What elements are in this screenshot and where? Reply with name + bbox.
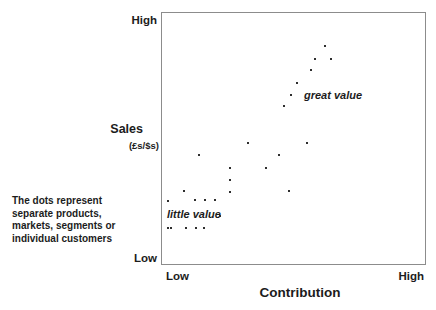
data-dot <box>229 179 231 181</box>
data-dot <box>185 227 187 229</box>
data-dot <box>278 154 280 156</box>
x-axis-high-label: High <box>394 270 424 282</box>
plot-area: great value little value <box>161 12 426 265</box>
data-dot <box>314 58 316 60</box>
side-note: The dots represent separate products, ma… <box>12 195 152 245</box>
side-note-line: The dots represent <box>12 195 152 208</box>
y-axis-high-label: High <box>60 14 157 26</box>
side-note-line: separate products, <box>12 208 152 221</box>
data-dot <box>283 105 285 107</box>
data-dot <box>229 167 231 169</box>
data-dot <box>229 191 231 193</box>
data-dot <box>198 154 200 156</box>
side-note-line: individual customers <box>12 233 152 246</box>
y-axis-title: Sales <box>62 122 159 136</box>
data-dot <box>194 199 196 201</box>
data-dot <box>290 94 292 96</box>
data-dot <box>167 227 169 229</box>
data-dot <box>195 227 197 229</box>
little-value-label: little value <box>167 208 221 220</box>
x-axis-title: Contribution <box>170 285 430 300</box>
data-dot <box>265 167 267 169</box>
data-dot <box>247 142 249 144</box>
data-dot <box>324 45 326 47</box>
y-axis-units: (£s/$s) <box>62 140 159 151</box>
y-axis-title-block: Sales (£s/$s) <box>62 122 159 151</box>
data-dot <box>214 199 216 201</box>
x-axis-low-label: Low <box>166 270 189 282</box>
data-dot <box>219 215 221 217</box>
data-dot <box>183 190 185 192</box>
data-dot <box>170 227 172 229</box>
scatter-figure: High Sales (£s/$s) Low The dots represen… <box>0 0 436 310</box>
data-dot <box>330 58 332 60</box>
side-note-line: markets, segments or <box>12 220 152 233</box>
data-dot <box>310 69 312 71</box>
data-dot <box>204 199 206 201</box>
data-dot <box>288 190 290 192</box>
data-dot <box>167 200 169 202</box>
y-axis-low-label: Low <box>60 252 157 264</box>
data-dot <box>306 142 308 144</box>
great-value-label: great value <box>304 89 362 101</box>
data-dot <box>296 82 298 84</box>
data-dot <box>203 227 205 229</box>
